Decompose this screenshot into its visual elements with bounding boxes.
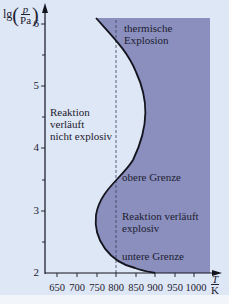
- y-tick-label-3: 3: [27, 204, 39, 216]
- annotation-nonexpl-line3: nicht explosiv: [50, 130, 112, 142]
- y-axis-label-prefix: lg: [3, 7, 12, 22]
- x-tick-label-1000: 1000: [184, 282, 208, 293]
- y-tick-label-2: 2: [27, 266, 39, 278]
- annotation-thermal-line2: Explosion: [124, 34, 172, 46]
- annotation-explosive: Reaktion verläuft explosiv: [122, 210, 199, 234]
- x-axis-denominator: K: [211, 285, 219, 295]
- x-tick-label-900: 900: [144, 282, 166, 293]
- y-tick-label-5: 5: [27, 79, 39, 91]
- x-axis-label: T K: [211, 274, 219, 295]
- y-axis-arrow-icon: [42, 3, 48, 13]
- annotation-expl-line1: Reaktion verläuft: [122, 210, 199, 222]
- annotation-non-explosive: Reaktion verläuft nicht explosiv: [50, 106, 112, 142]
- left-paren: (: [12, 5, 19, 25]
- x-tick-label-950: 950: [164, 282, 186, 293]
- annotation-nonexpl-line1: Reaktion: [50, 106, 112, 118]
- x-tick-label-700: 700: [66, 282, 88, 293]
- annotation-expl-line2: explosiv: [122, 222, 199, 234]
- x-tick-label-650: 650: [46, 282, 68, 293]
- y-tick-label-6: 6: [27, 17, 39, 29]
- annotation-thermal-line1: thermische: [124, 22, 172, 34]
- annotation-nonexpl-line2: verläuft: [50, 118, 112, 130]
- y-tick-label-4: 4: [27, 141, 39, 153]
- annotation-thermal-explosion: thermische Explosion: [124, 22, 172, 46]
- annotation-lower-limit: untere Grenze: [122, 250, 184, 262]
- x-tick-label-800: 800: [105, 282, 127, 293]
- explosive-region: [96, 18, 210, 273]
- annotation-upper-limit: obere Grenze: [122, 171, 181, 183]
